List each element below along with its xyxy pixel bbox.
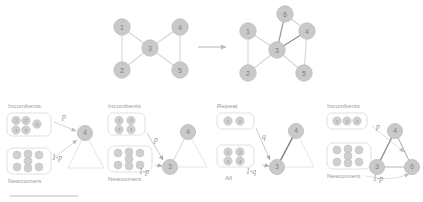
one-minus-p-arrow: [155, 165, 162, 166]
bowtie-graph-after: 1 2 3 4 5 6: [240, 6, 315, 81]
node-4-label: 4: [294, 127, 298, 134]
panel-2-incumbents-label: Incumbents: [108, 102, 141, 109]
node-1-label: 1: [246, 28, 250, 35]
panel-2-p-label: p: [154, 135, 158, 144]
incumbents-box: [108, 113, 145, 135]
incumbents-pool-nodes: 1 2 4 3 5: [12, 116, 41, 134]
newcomers-pool-nodes: [333, 145, 363, 167]
repeat-box: [217, 113, 254, 129]
node-5-label: 5: [178, 67, 182, 74]
node-6-label: 6: [283, 11, 287, 18]
nodes-after: 1 2 3 4 5 6: [240, 6, 315, 81]
panel-3-all-label: All: [225, 174, 232, 181]
newcomers-pool-nodes: [13, 150, 43, 172]
panel-1-incumbents-label: Incumbents: [8, 102, 41, 109]
panel-4-incumbents-label: Incumbents: [327, 102, 360, 109]
node-2-label: 2: [246, 70, 250, 77]
node-1-label: 1: [120, 24, 124, 31]
panel-1-p-label: p: [62, 112, 66, 121]
node-3-label: 3: [168, 163, 172, 170]
panel-4-p-label: p: [376, 122, 380, 131]
panel-1-newcomers-label: Newcomers: [8, 177, 42, 184]
panel-2-1-minus-p-label: 1-p: [139, 167, 149, 176]
p-arrow: [54, 122, 76, 131]
panel-2-newcomers-label: Newcomers: [108, 175, 142, 182]
panel-1-1-minus-p-label: 1-p: [52, 153, 62, 162]
repeat-pool-nodes: 1 2: [224, 117, 244, 125]
bowtie-graph-before: 1 2 3 4 5: [114, 19, 188, 78]
node-3-label: 3: [275, 163, 279, 170]
incumbents-pool-nodes: 1 2 3 4: [115, 116, 135, 133]
all-pool-nodes: 1 2 3 4: [224, 148, 244, 165]
panel-4-newcomers-label: Newcomers: [327, 172, 361, 179]
nodes-before: 1 2 3 4 5: [114, 19, 188, 78]
node-2-label: 2: [120, 67, 124, 74]
panel-step-4: 1 2 3 4 3 6: [327, 113, 420, 179]
node-4-label: 4: [393, 127, 397, 134]
all-box: [217, 145, 254, 167]
network-growth-model-figure: 1 2 3 4 5: [0, 0, 423, 202]
node-3-label: 3: [148, 45, 152, 52]
node-4-label: 4: [83, 129, 87, 136]
node-3-label: 3: [275, 47, 279, 54]
incumbents-pool-nodes: 1 2 3: [333, 117, 361, 125]
panel-3-q-label: q: [262, 132, 266, 141]
one-minus-q-arrow: [262, 165, 269, 166]
node-4-label: 4: [305, 28, 309, 35]
panel-step-3: 1 2 1 2 3 4 4: [217, 113, 314, 175]
node-6-label: 6: [410, 163, 414, 170]
node-4-label: 4: [178, 24, 182, 31]
panel-3-1-minus-q-label: 1-q: [246, 167, 256, 176]
panel-step-1: 1 2 4 3 5: [7, 113, 104, 174]
panel-4-1-minus-p-label: 1-p: [373, 174, 383, 183]
node-3-label: 3: [375, 163, 379, 170]
panel-3-repeat-label: Repeat: [217, 102, 238, 109]
node-4-label: 4: [186, 128, 190, 135]
node-5-label: 5: [302, 70, 306, 77]
